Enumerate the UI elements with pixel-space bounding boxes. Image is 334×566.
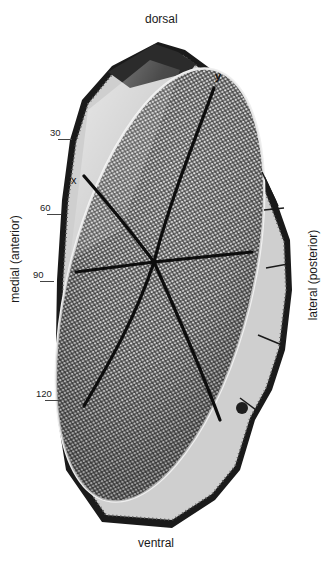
tick-line-120 (45, 400, 59, 401)
tick-line-90 (40, 281, 54, 282)
tick-label-120: 120 (36, 388, 52, 399)
marker-y: y (215, 70, 221, 82)
marker-x: x (71, 174, 77, 186)
compound-eye-micrograph (0, 0, 334, 566)
tick-label-90: 90 (33, 269, 44, 280)
tick-label-60: 60 (40, 202, 51, 213)
tick-label-30: 30 (50, 127, 61, 138)
eye-micrograph-figure: dorsal ventral medial (anterior) lateral… (0, 0, 334, 566)
tick-line-60 (47, 214, 61, 215)
label-lateral-posterior: lateral (posterior) (306, 215, 320, 335)
label-dorsal: dorsal (145, 12, 178, 26)
label-ventral: ventral (138, 536, 174, 550)
tick-line-30 (58, 139, 72, 140)
label-medial-anterior: medial (anterior) (8, 204, 22, 314)
